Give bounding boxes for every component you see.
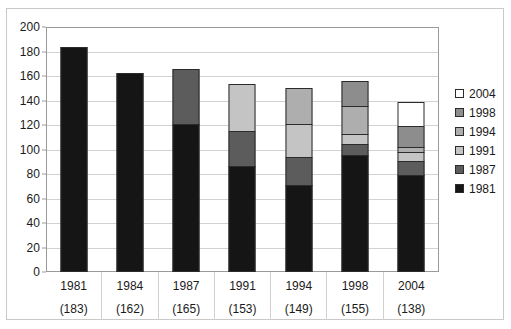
- stacked-bar[interactable]: [397, 103, 424, 272]
- x-axis-count-label: (183): [46, 297, 101, 320]
- x-axis-year-label: 1998: [327, 272, 382, 297]
- legend-item[interactable]: 2004: [455, 84, 503, 103]
- bar-segment[interactable]: [229, 131, 256, 166]
- x-axis-category-table: 1981(183)1984(162)1987(165)1991(153)1994…: [46, 272, 439, 320]
- legend-item-label: 1998: [469, 106, 496, 120]
- bar-slot: [327, 27, 383, 272]
- bar-slot: [271, 27, 327, 272]
- legend-swatch-icon: [455, 127, 464, 136]
- legend-item-label: 1987: [469, 163, 496, 177]
- bar-slot: [383, 27, 439, 272]
- legend-item-label: 2004: [469, 87, 496, 101]
- y-axis-tick-label: 140: [20, 94, 40, 108]
- stacked-bar[interactable]: [229, 85, 256, 272]
- x-axis-year-label: 1984: [102, 272, 157, 297]
- bar-segment[interactable]: [341, 134, 368, 145]
- bars-layer: [46, 27, 439, 272]
- x-axis-count-label: (138): [384, 297, 439, 320]
- legend-item[interactable]: 1981: [455, 179, 503, 198]
- x-axis-category: 1984(162): [102, 272, 158, 320]
- x-axis-year-label: 1991: [215, 272, 270, 297]
- bar-slot: [46, 27, 102, 272]
- x-axis-category: 1994(149): [271, 272, 327, 320]
- bar-segment[interactable]: [341, 144, 368, 156]
- x-axis-category: 1991(153): [215, 272, 271, 320]
- x-axis-category: 1981(183): [46, 272, 102, 320]
- bar-segment[interactable]: [285, 185, 312, 272]
- y-axis-tick-label: 100: [20, 143, 40, 157]
- bar-slot: [158, 27, 214, 272]
- x-axis-count-label: (165): [159, 297, 214, 320]
- legend-item-label: 1991: [469, 144, 496, 158]
- bar-segment[interactable]: [229, 84, 256, 133]
- bar-segment[interactable]: [397, 161, 424, 177]
- bar-slot: [214, 27, 270, 272]
- legend-swatch-icon: [455, 146, 464, 155]
- stacked-bar[interactable]: [61, 48, 88, 272]
- bar-segment[interactable]: [117, 73, 144, 272]
- bar-segment[interactable]: [285, 88, 312, 125]
- bar-segment[interactable]: [229, 166, 256, 272]
- legend-item[interactable]: 1994: [455, 122, 503, 141]
- bar-segment[interactable]: [341, 155, 368, 272]
- x-axis-year-label: 1987: [159, 272, 214, 297]
- y-axis-tick-label: 80: [26, 167, 40, 181]
- y-axis-tick-label: 120: [20, 118, 40, 132]
- bar-segment[interactable]: [397, 152, 424, 162]
- stacked-bar-chart: 200180160140120100806040200 1981(183)198…: [0, 0, 511, 329]
- x-axis-year-label: 1994: [271, 272, 326, 297]
- bar-segment[interactable]: [285, 157, 312, 186]
- legend-swatch-icon: [455, 108, 464, 117]
- y-axis: 200180160140120100806040200: [0, 27, 40, 272]
- x-axis-year-label: 2004: [384, 272, 439, 297]
- x-axis-year-label: 1981: [46, 272, 101, 297]
- y-axis-tick-label: 40: [26, 216, 40, 230]
- x-axis-count-label: (155): [327, 297, 382, 320]
- bar-segment[interactable]: [173, 69, 200, 125]
- x-axis-count-label: (153): [215, 297, 270, 320]
- stacked-bar[interactable]: [341, 82, 368, 272]
- y-axis-tick-label: 20: [26, 241, 40, 255]
- bar-slot: [102, 27, 158, 272]
- legend-item[interactable]: 1998: [455, 103, 503, 122]
- legend-item-label: 1994: [469, 125, 496, 139]
- y-axis-tick-label: 160: [20, 69, 40, 83]
- bar-segment[interactable]: [397, 102, 424, 128]
- bar-segment[interactable]: [397, 126, 424, 148]
- bar-segment[interactable]: [61, 47, 88, 272]
- legend-swatch-icon: [455, 184, 464, 193]
- legend-swatch-icon: [455, 165, 464, 174]
- x-axis-count-label: (149): [271, 297, 326, 320]
- stacked-bar[interactable]: [173, 70, 200, 272]
- stacked-bar[interactable]: [117, 74, 144, 272]
- y-axis-tick-label: 0: [33, 265, 40, 279]
- legend-item[interactable]: 1991: [455, 141, 503, 160]
- stacked-bar[interactable]: [285, 89, 312, 272]
- bar-segment[interactable]: [397, 175, 424, 272]
- x-axis-category: 1987(165): [159, 272, 215, 320]
- y-axis-tick-label: 180: [20, 45, 40, 59]
- y-axis-tick-label: 60: [26, 192, 40, 206]
- y-axis-tick-label: 200: [20, 20, 40, 34]
- x-axis-count-label: (162): [102, 297, 157, 320]
- legend: 200419981994199119871981: [455, 84, 503, 198]
- legend-item-label: 1981: [469, 182, 496, 196]
- x-axis-category: 1998(155): [327, 272, 383, 320]
- legend-swatch-icon: [455, 89, 464, 98]
- bar-segment[interactable]: [285, 124, 312, 158]
- legend-item[interactable]: 1987: [455, 160, 503, 179]
- bar-segment[interactable]: [341, 106, 368, 135]
- bar-segment[interactable]: [341, 81, 368, 107]
- bar-segment[interactable]: [173, 124, 200, 272]
- x-axis-category: 2004(138): [384, 272, 439, 320]
